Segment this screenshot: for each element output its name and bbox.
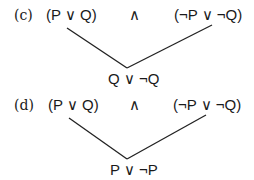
c-right-branch: [127, 25, 212, 68]
and-operator: ∧: [129, 96, 140, 114]
right-clause: (¬P ∨ ¬Q): [173, 96, 241, 114]
left-clause: (P ∨ Q): [48, 96, 99, 114]
resolution-lines: [0, 0, 254, 180]
c-left-branch: [67, 28, 127, 68]
problem-label: (d): [14, 96, 34, 114]
resolvent: P ∨ ¬P: [110, 161, 158, 179]
d-right-branch: [127, 115, 206, 159]
right-clause: (¬P ∨ ¬Q): [174, 6, 242, 24]
and-operator: ∧: [129, 6, 140, 24]
left-clause: (P ∨ Q): [46, 6, 97, 24]
problem-label: (c): [14, 6, 33, 24]
resolvent: Q ∨ ¬Q: [108, 70, 159, 88]
d-left-branch: [69, 118, 127, 159]
